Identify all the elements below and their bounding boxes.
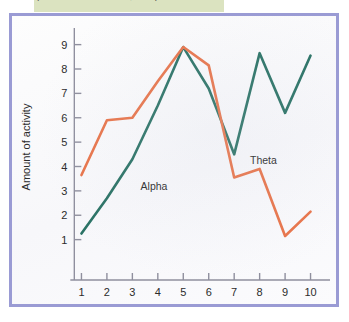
y-tick-label: 7 (61, 87, 67, 99)
y-tick-label: 9 (61, 39, 67, 51)
x-tick-label: 1 (78, 286, 84, 298)
axis-titles: Age (years)Amount of activity (20, 103, 224, 304)
series-line-theta (81, 47, 310, 236)
series-lines (81, 47, 310, 236)
series-line-alpha (81, 47, 310, 233)
page-margin (0, 307, 349, 322)
caption-band: (from Corsini & Stafford, 1986) (34, 0, 224, 12)
y-tick-label: 8 (61, 63, 67, 75)
y-tick-label: 4 (61, 161, 67, 173)
x-tick-label: 3 (129, 286, 135, 298)
figure-frame: 123456789 12345678910 AlphaTheta Age (ye… (9, 13, 339, 307)
x-tick-label: 6 (206, 286, 212, 298)
series-annotations: AlphaTheta (141, 154, 277, 192)
x-tick-label: 8 (257, 286, 263, 298)
series-label-alpha: Alpha (141, 180, 168, 192)
series-label-theta: Theta (250, 154, 277, 166)
x-tick-label: 2 (104, 286, 110, 298)
x-tick-label: 5 (180, 286, 186, 298)
x-tick-label: 4 (155, 286, 161, 298)
y-axis: 123456789 (61, 28, 81, 280)
x-tick-label: 9 (282, 286, 288, 298)
y-tick-label: 5 (61, 136, 67, 148)
x-tick-label: 10 (304, 286, 316, 298)
line-chart: 123456789 12345678910 AlphaTheta Age (ye… (12, 16, 336, 304)
x-tick-label: 7 (231, 286, 237, 298)
y-tick-label: 3 (61, 185, 67, 197)
y-axis-title: Amount of activity (20, 103, 32, 190)
x-axis: 12345678910 (70, 273, 330, 298)
caption-text: (from Corsini & Stafford, 1986) (36, 0, 158, 1)
y-tick-label: 6 (61, 112, 67, 124)
y-tick-label: 1 (61, 234, 67, 246)
y-tick-label: 2 (61, 209, 67, 221)
